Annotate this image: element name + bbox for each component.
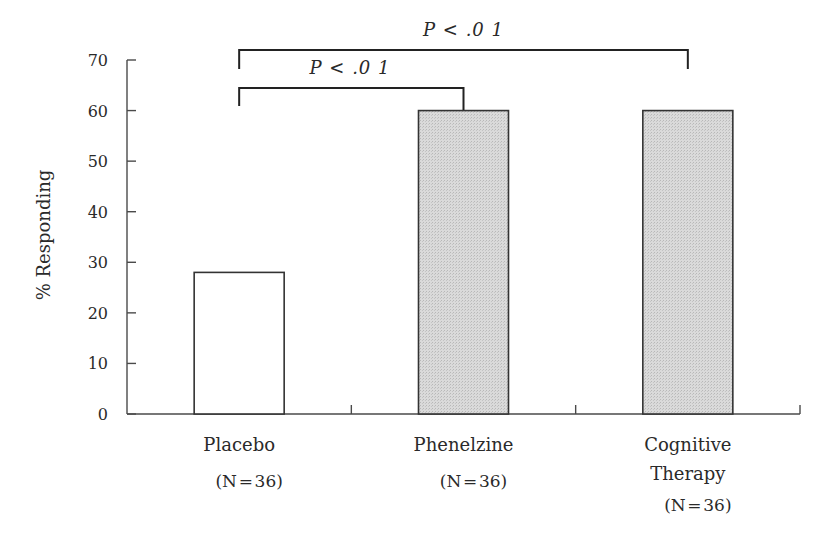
category-labels: Placebo(N = 36)Phenelzine(N = 36)Cogniti… xyxy=(203,434,731,515)
y-tick-label: 50 xyxy=(88,152,108,171)
sample-size-label: (N = 36) xyxy=(440,471,507,491)
y-tick-label: 30 xyxy=(88,253,108,272)
sample-size-label: (N = 36) xyxy=(664,495,731,515)
sample-size-label: (N = 36) xyxy=(215,471,282,491)
y-axis: 010203040506070 xyxy=(88,51,136,424)
bars xyxy=(194,111,733,414)
bar-phenelzine xyxy=(419,111,509,414)
bar-placebo xyxy=(194,272,284,414)
significance-label: P < .0 1 xyxy=(309,57,391,78)
y-tick-label: 10 xyxy=(88,354,108,373)
x-category-label: Phenelzine xyxy=(414,434,514,455)
bar-cognitive-therapy xyxy=(643,111,733,414)
y-tick-label: 60 xyxy=(88,102,108,121)
y-tick-label: 40 xyxy=(88,203,108,222)
y-tick-label: 0 xyxy=(98,405,108,424)
significance-bracket xyxy=(239,88,463,110)
significance-brackets: P < .0 1P < .0 1 xyxy=(239,19,688,110)
x-category-label: Placebo xyxy=(203,434,275,455)
bar-chart: 010203040506070 P < .0 1P < .0 1 Placebo… xyxy=(0,0,825,539)
x-category-label: Cognitive xyxy=(644,434,731,455)
y-tick-label: 70 xyxy=(88,51,108,70)
x-category-label: Therapy xyxy=(650,463,726,484)
significance-bracket xyxy=(239,50,688,69)
significance-label: P < .0 1 xyxy=(422,19,504,40)
y-tick-label: 20 xyxy=(88,304,108,323)
y-axis-label: % Responding xyxy=(33,170,54,301)
